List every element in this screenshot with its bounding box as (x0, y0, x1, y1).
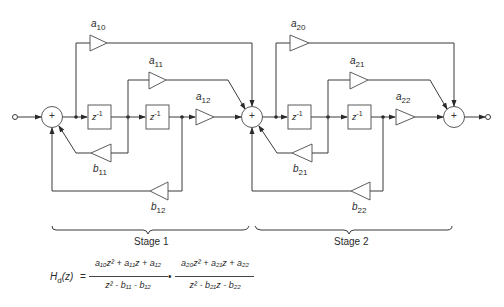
gain-a10-label: a10 (91, 18, 105, 32)
stage-1-label: Stage 1 (134, 236, 168, 247)
stage-2-numerator: a₂₀z² + a₂₁z + a₂₂ (175, 258, 255, 268)
delay-z2-label: z-1 (150, 110, 161, 122)
gain-b12-label: b12 (151, 201, 165, 215)
delay-z3-label: z-1 (292, 110, 303, 122)
input-terminal-icon (13, 115, 18, 120)
adder-3-plus: + (444, 110, 464, 121)
delay-z4-label: z-1 (352, 110, 363, 122)
equation-equals: = (80, 271, 86, 282)
gain-b21-label: b21 (293, 163, 307, 177)
stage-1-numerator: a₁₀z² + a₁₁z + a₁₂ (88, 258, 168, 268)
adder-1-plus: + (42, 110, 62, 121)
gain-a12-triangle (196, 109, 214, 125)
stage-2-fraction-bar (175, 276, 254, 277)
gain-a21-triangle (350, 72, 368, 89)
gain-a11-triangle (149, 72, 166, 89)
gain-a21-label: a21 (350, 55, 364, 69)
stage-2-denominator: z² - b₂₁z - b₂₂ (175, 280, 255, 290)
stage-1-denominator: z² - b₁₁ - b₁₂ (88, 280, 168, 290)
gain-b22-label: b22 (352, 201, 366, 215)
gain-b11-label: b11 (93, 163, 107, 177)
gain-a20-label: a20 (291, 18, 305, 32)
gain-a22-triangle (396, 109, 415, 125)
gain-a20-triangle (290, 35, 309, 51)
delay-z1-label: z-1 (92, 110, 103, 122)
gain-b12-triangle (150, 182, 168, 200)
gain-a10-triangle (90, 35, 107, 51)
equation-lhs: Hd(z) (50, 271, 73, 285)
stage-2-label: Stage 2 (334, 236, 368, 247)
adder-2-plus: + (242, 110, 262, 121)
gain-b21-triangle (292, 144, 312, 162)
stage-1-fraction-bar (89, 276, 168, 277)
gain-b22-triangle (351, 182, 370, 200)
equation-product-dot: • (168, 271, 172, 282)
stage-2-brace (255, 226, 452, 234)
gain-a12-label: a12 (196, 91, 210, 105)
output-terminal-icon (486, 115, 491, 120)
stage-1-brace (52, 226, 249, 234)
gain-b11-triangle (91, 144, 111, 162)
gain-a11-label: a11 (149, 55, 163, 69)
gain-a22-label: a22 (396, 91, 410, 105)
